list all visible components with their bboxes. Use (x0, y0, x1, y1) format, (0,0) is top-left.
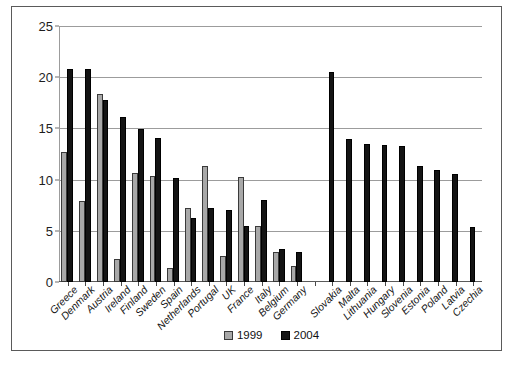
bar-2004 (346, 139, 352, 282)
bar-group (306, 26, 324, 282)
y-tick-label: 0 (46, 276, 53, 289)
bar-2004 (470, 227, 476, 282)
bar-group (359, 26, 377, 282)
y-tick-label: 15 (39, 122, 53, 135)
bar-2004 (417, 166, 423, 282)
bar-group (147, 26, 165, 282)
bar-2004 (399, 146, 405, 282)
bar-group (412, 26, 430, 282)
gray-square-swatch (224, 331, 233, 340)
bar-group (77, 26, 95, 282)
legend-entry-1999: 1999 (224, 330, 263, 342)
y-tick-label: 10 (39, 173, 53, 186)
legend-label-1999: 1999 (237, 330, 263, 342)
legend-entry-2004: 2004 (281, 330, 320, 342)
bar-2004 (138, 129, 144, 282)
bar-2004 (364, 144, 370, 282)
bar-group (235, 26, 253, 282)
bar-2004 (261, 200, 267, 282)
bar-2004 (279, 249, 285, 282)
bar-2004 (208, 208, 214, 282)
bar-group (94, 26, 112, 282)
bar-2004 (191, 218, 197, 283)
bar-group (429, 26, 447, 282)
bar-group (341, 26, 359, 282)
y-tick-label: 25 (39, 20, 53, 33)
bar-group (464, 26, 482, 282)
bar-group (323, 26, 341, 282)
plot-area: 0510152025 (59, 26, 482, 282)
bar-group (130, 26, 148, 282)
bar-2004 (452, 174, 458, 282)
bar-group (112, 26, 130, 282)
bar-2004 (329, 72, 335, 282)
bar-2004 (67, 69, 73, 282)
bar-group (218, 26, 236, 282)
bar-group (271, 26, 289, 282)
bar-2004 (120, 117, 126, 282)
bar-2004 (434, 170, 440, 282)
bar-group (376, 26, 394, 282)
bar-group (165, 26, 183, 282)
y-tick-label: 5 (46, 224, 53, 237)
bar-group (253, 26, 271, 282)
chart-frame: 0510152025 GreeceDenmarkAustriaIrelandFi… (11, 6, 502, 351)
bar-2004 (244, 226, 250, 282)
bars-layer (59, 26, 482, 282)
bar-2004 (155, 138, 161, 282)
legend-label-2004: 2004 (294, 330, 320, 342)
bar-group (447, 26, 465, 282)
chart-legend: 1999 2004 (12, 330, 501, 342)
bar-group (182, 26, 200, 282)
bar-group (59, 26, 77, 282)
bar-group (288, 26, 306, 282)
bar-group (200, 26, 218, 282)
bar-2004 (226, 210, 232, 282)
y-tick-label: 20 (39, 71, 53, 84)
bar-2004 (382, 145, 388, 282)
bar-group (394, 26, 412, 282)
bar-2004 (296, 252, 302, 282)
bar-2004 (85, 69, 91, 282)
black-square-swatch (281, 331, 290, 340)
bar-2004 (173, 178, 179, 282)
bar-2004 (103, 100, 109, 282)
